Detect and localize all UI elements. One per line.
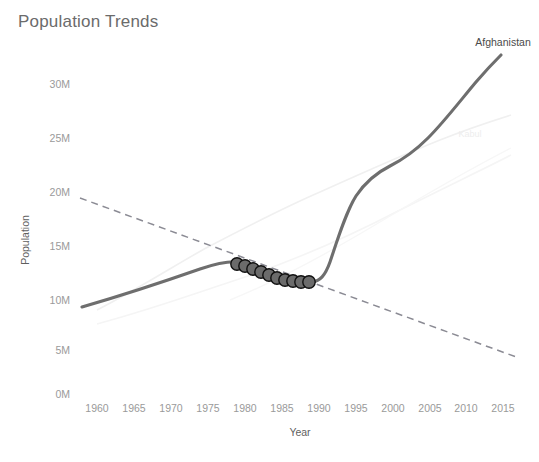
background-series-2-line [97,155,511,324]
x-tick-2010: 2010 [454,402,478,414]
chart-plot-area: Kabul 30M 25M 20M 15M 10M 5M 0M Populati… [0,0,539,462]
data-point-marker[interactable] [303,276,315,288]
background-series-group: Kabul [97,115,511,324]
y-axis-tick-labels: 30M 25M 20M 15M 10M 5M 0M [50,78,70,400]
footer-caption-clipped [0,448,539,462]
y-tick-20m: 20M [50,186,70,198]
y-tick-0m: 0M [55,388,70,400]
highlighted-points-group[interactable] [231,258,315,288]
x-tick-1975: 1975 [196,402,220,414]
x-axis-title: Year [289,426,311,438]
y-tick-25m: 25M [50,132,70,144]
y-tick-10m: 10M [50,294,70,306]
x-tick-2015: 2015 [491,402,515,414]
ghost-series-label: Kabul [458,129,481,139]
x-tick-1980: 1980 [233,402,257,414]
x-tick-1970: 1970 [159,402,183,414]
y-axis-title: Population [19,215,31,265]
afghanistan-line[interactable] [82,55,501,307]
x-tick-2000: 2000 [381,402,405,414]
x-tick-1965: 1965 [122,402,146,414]
x-tick-1985: 1985 [270,402,294,414]
x-tick-2005: 2005 [418,402,442,414]
x-tick-1995: 1995 [344,402,368,414]
series-label-afghanistan: Afghanistan [475,36,531,48]
x-tick-1960: 1960 [85,402,109,414]
population-trends-chart: Population Trends Kabul 30M 25M 20M 15M … [0,0,539,462]
x-tick-1990: 1990 [307,402,331,414]
x-axis-tick-labels: 1960 1965 1970 1975 1980 1985 1990 1995 … [85,402,515,414]
y-tick-15m: 15M [50,240,70,252]
y-tick-5m: 5M [55,344,70,356]
y-tick-30m: 30M [50,78,70,90]
